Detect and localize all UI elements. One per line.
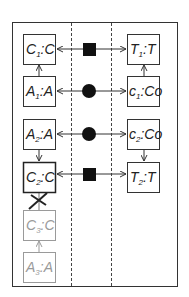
object-diagram: C1:C A1:A A2:A C2:C C3:C A3:A T1:T c1:Co… [0, 0, 189, 297]
box-t1: T1:T [128, 35, 160, 65]
square-node-icon [83, 168, 96, 181]
box-a2: A2:A [24, 120, 56, 150]
box-a1: A1:A [24, 77, 56, 107]
svg-text:C3:C: C3:C [26, 217, 55, 235]
square-node-icon [83, 43, 96, 56]
box-t2: T2:T [128, 163, 160, 193]
circle-node-icon [82, 127, 96, 141]
svg-text:c2:Co: c2:Co [129, 126, 162, 144]
box-c2: C2:C [24, 163, 56, 193]
svg-text:T1:T: T1:T [130, 41, 157, 59]
svg-text:A3:A: A3:A [25, 259, 53, 277]
box-a3-ghost: A3:A [24, 253, 56, 283]
box-c3-ghost: C3:C [24, 211, 56, 241]
svg-text:C1:C: C1:C [26, 41, 55, 59]
box-c1: C1:C [24, 35, 56, 65]
svg-text:A2:A: A2:A [25, 126, 53, 144]
circle-node-icon [82, 84, 96, 98]
box-c2-co: c2:Co [128, 120, 163, 150]
svg-text:A1:A: A1:A [25, 83, 53, 101]
box-c1-co: c1:Co [128, 77, 163, 107]
svg-text:c1:Co: c1:Co [129, 83, 162, 101]
svg-text:T2:T: T2:T [130, 169, 157, 187]
svg-text:C2:C: C2:C [26, 169, 55, 187]
